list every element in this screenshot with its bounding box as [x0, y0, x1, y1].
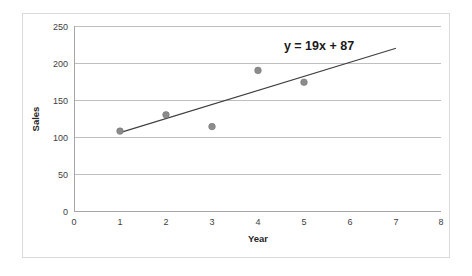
chart-frame: 250 200 150 100 50 0 0 1 2 3 4 5 6 7 8 Y… — [22, 13, 450, 258]
x-tick-8: 8 — [438, 217, 443, 227]
sales-vs-year-scatter-chart: 250 200 150 100 50 0 0 1 2 3 4 5 6 7 8 Y… — [23, 14, 449, 257]
data-point-year-3[interactable] — [209, 123, 216, 130]
data-point-year-5[interactable] — [301, 79, 308, 86]
data-point-year-1[interactable] — [117, 128, 124, 135]
gridlines — [74, 26, 441, 174]
y-axis-title: Sales — [30, 107, 41, 132]
x-tick-5: 5 — [301, 217, 306, 227]
y-tick-150: 150 — [53, 96, 68, 106]
x-tick-0: 0 — [71, 217, 76, 227]
y-tick-250: 250 — [53, 22, 68, 32]
y-tick-0: 0 — [63, 207, 68, 217]
x-tick-7: 7 — [393, 217, 398, 227]
trendline-equation-label: y = 19x + 87 — [284, 39, 354, 53]
trendline — [120, 48, 396, 132]
x-tick-1: 1 — [117, 217, 122, 227]
x-axis-tick-labels: 0 1 2 3 4 5 6 7 8 — [71, 217, 443, 227]
x-axis-title: Year — [248, 233, 268, 244]
x-tick-3: 3 — [209, 217, 214, 227]
x-tick-2: 2 — [163, 217, 168, 227]
data-point-year-2[interactable] — [163, 112, 170, 119]
y-tick-50: 50 — [58, 170, 68, 180]
y-tick-100: 100 — [53, 133, 68, 143]
data-point-year-4[interactable] — [255, 67, 262, 74]
axes — [74, 26, 441, 211]
y-tick-200: 200 — [53, 59, 68, 69]
x-tick-4: 4 — [255, 217, 260, 227]
y-axis-tick-labels: 250 200 150 100 50 0 — [53, 22, 68, 217]
x-tick-6: 6 — [347, 217, 352, 227]
